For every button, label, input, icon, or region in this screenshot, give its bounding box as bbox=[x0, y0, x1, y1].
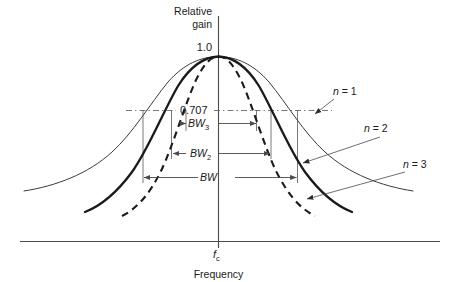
filter-response-figure: BW3 BW2 BW n = 1 bbox=[0, 0, 455, 282]
bandwidth-marker-bw2: BW2 bbox=[173, 147, 270, 162]
bandwidth-drop-lines-group bbox=[143, 110, 298, 183]
n3-label: n = 3 bbox=[403, 158, 427, 170]
n2-label: n = 2 bbox=[364, 122, 388, 134]
bw-label: BW bbox=[200, 171, 218, 183]
n1-label: n = 1 bbox=[333, 85, 357, 97]
peak-gain-tick-label: 1.0 bbox=[197, 41, 212, 53]
center-frequency-label: fc bbox=[213, 248, 220, 263]
half-power-tick-label: 0.707 bbox=[180, 104, 208, 116]
x-axis-label: Frequency bbox=[194, 268, 244, 280]
y-axis-label-line2: gain bbox=[192, 18, 212, 30]
filter-response-chart: BW3 BW2 BW n = 1 bbox=[0, 0, 455, 282]
n1-leader-line bbox=[315, 99, 334, 114]
bw2-label: BW2 bbox=[190, 147, 211, 162]
y-axis-label-line1: Relative bbox=[174, 5, 212, 17]
bw3-label: BW3 bbox=[188, 117, 209, 132]
n3-leader-line bbox=[307, 172, 405, 199]
annotation-n-equals-1: n = 1 bbox=[315, 85, 357, 114]
bandwidth-marker-bw: BW bbox=[144, 171, 297, 183]
bandwidth-marker-bw3: BW3 bbox=[178, 117, 256, 132]
